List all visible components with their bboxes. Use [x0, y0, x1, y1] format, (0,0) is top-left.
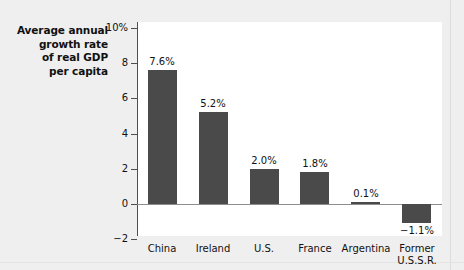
category-label-line: U.S.S.R.	[382, 255, 452, 267]
y-axis-tick-label: 2	[92, 164, 128, 174]
bar	[351, 202, 380, 204]
bar	[199, 112, 228, 204]
bar	[250, 169, 279, 204]
y-axis-tick-label: −2	[92, 234, 128, 244]
bar-value-label: 5.2%	[183, 99, 243, 109]
figure-frame-right	[450, 0, 451, 270]
y-axis-tick-label: 8	[92, 58, 128, 68]
bar-value-label: 0.1%	[336, 189, 396, 199]
bar-value-label: 7.6%	[132, 57, 192, 67]
bar	[300, 172, 329, 204]
y-axis-tick	[131, 239, 137, 240]
y-axis-tick	[131, 169, 137, 170]
y-axis-tick	[131, 98, 137, 99]
y-axis-tick-label: 0	[92, 199, 128, 209]
y-axis-tick	[131, 204, 137, 205]
y-axis-tick	[131, 134, 137, 135]
chart-figure: Average annual growth rate of real GDP p…	[0, 0, 464, 270]
bar-value-label: −1.1%	[387, 226, 447, 236]
bar	[148, 70, 177, 204]
y-axis-tick-label: 10%	[92, 23, 128, 33]
zero-baseline	[137, 204, 442, 205]
y-axis-tick-label: 6	[92, 93, 128, 103]
y-axis-tick-label: 4	[92, 129, 128, 139]
x-axis-category-label: FormerU.S.S.R.	[382, 243, 452, 267]
bar-value-label: 1.8%	[285, 159, 345, 169]
category-label-line: Former	[382, 243, 452, 255]
axis-title-line-2: growth rate	[8, 38, 108, 52]
y-axis-tick	[131, 28, 137, 29]
bar	[402, 204, 431, 223]
